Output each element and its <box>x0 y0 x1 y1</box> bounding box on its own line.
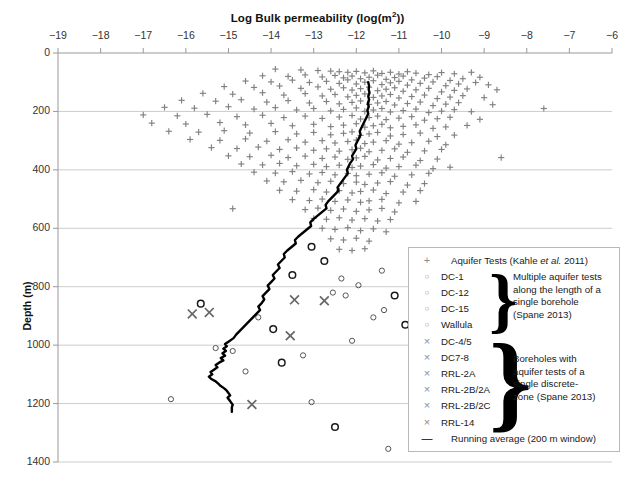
legend-content: +Aquifer Tests (Kahle et al. 2011)○DC-1○… <box>409 248 619 451</box>
legend-note-group-2: Boreholes withaquifer tests of asingle d… <box>513 353 595 403</box>
legend-item[interactable]: ×RRL-2A <box>417 365 475 381</box>
legend-item[interactable]: ○DC-12 <box>417 284 469 300</box>
legend-item[interactable]: ×RRL-14 <box>417 414 474 430</box>
x-marker-icon: × <box>417 336 437 347</box>
x-marker-icon: × <box>417 417 437 428</box>
circle-marker-icon: ○ <box>417 271 437 282</box>
legend-note-line: zone (Spane 2013) <box>513 391 595 404</box>
legend-item[interactable]: ×RRL-2B/2C <box>417 398 491 414</box>
legend-note-line: aquifer tests of a <box>513 366 595 379</box>
legend-item-label: RRL-2B/2A <box>441 384 490 395</box>
legend-item[interactable]: ×RRL-2B/2A <box>417 382 490 398</box>
legend-item-label: Wallula <box>441 319 472 330</box>
legend-note-line: Boreholes with <box>513 353 595 366</box>
legend-note-line: single discrete- <box>513 378 595 391</box>
series-aquifer-tests <box>140 66 547 254</box>
legend-box: +Aquifer Tests (Kahle et al. 2011)○DC-1○… <box>408 247 620 452</box>
circle-marker-icon: ○ <box>417 287 437 298</box>
legend-item-label: DC-15 <box>441 303 469 314</box>
permeability-depth-figure: Log Bulk permeability (log(m2)) Depth (m… <box>0 0 635 483</box>
legend-item-label: DC-4/5 <box>441 336 472 347</box>
legend-note-line: (Spane 2013) <box>513 309 602 322</box>
legend-item-label: DC-1 <box>441 271 464 282</box>
x-marker-icon: × <box>417 400 437 411</box>
x-marker-icon: × <box>417 368 437 379</box>
legend-note-group-1: Multiple aquifer testsalong the length o… <box>513 271 602 321</box>
legend-item-label: RRL-2A <box>441 368 475 379</box>
legend-note-line: single borehole <box>513 296 602 309</box>
legend-item[interactable]: ×DC7-8 <box>417 349 469 365</box>
legend-item-label: DC-12 <box>441 287 469 298</box>
series-running-average <box>209 82 370 412</box>
legend-italic-text: et al. <box>540 255 561 266</box>
legend-item[interactable]: ○Wallula <box>417 317 472 333</box>
line-marker-icon: — <box>417 433 437 444</box>
x-marker-icon: × <box>417 384 437 395</box>
circle-marker-icon: ○ <box>417 319 437 330</box>
legend-item-label: RRL-14 <box>441 417 474 428</box>
legend-item-label: Aquifer Tests (Kahle et al. 2011) <box>451 255 588 266</box>
legend-item[interactable]: ×DC-4/5 <box>417 333 472 349</box>
legend-note-line: along the length of a <box>513 284 602 297</box>
legend-item-label: DC7-8 <box>441 352 469 363</box>
circle-marker-icon: ○ <box>417 303 437 314</box>
series-borehole-circles <box>168 243 420 451</box>
legend-item-label: RRL-2B/2C <box>441 400 491 411</box>
x-marker-icon: × <box>417 352 437 363</box>
plus-marker-icon: + <box>417 255 437 266</box>
legend-note-line: Multiple aquifer tests <box>513 271 602 284</box>
legend-item[interactable]: ○DC-15 <box>417 301 469 317</box>
legend-item[interactable]: ○DC-1 <box>417 268 464 284</box>
